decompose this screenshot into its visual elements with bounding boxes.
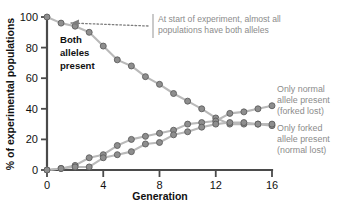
data-point — [185, 98, 191, 104]
y-tick-label-80: 80 — [26, 42, 38, 54]
x-tick-group: 0481216 — [44, 170, 278, 191]
x-tick-label-4: 4 — [100, 179, 106, 191]
series-line-1 — [47, 106, 272, 170]
data-point — [58, 20, 64, 26]
both-alleles-line-3: present — [60, 60, 95, 71]
data-point — [128, 149, 134, 155]
y-tick-label-0: 0 — [32, 164, 38, 176]
data-point — [44, 14, 50, 20]
only-normal-side-label: Only normal allele present (forked lost) — [277, 84, 330, 116]
only-forked-line-2: allele present — [277, 134, 330, 144]
y-axis-title: % of experimental populations — [4, 18, 16, 170]
data-point — [72, 164, 78, 170]
data-point — [171, 132, 177, 138]
both-alleles-line-1: Both — [60, 34, 82, 45]
data-point — [199, 124, 205, 130]
data-point — [241, 120, 247, 126]
y-tick-label-20: 20 — [26, 133, 38, 145]
data-point — [185, 121, 191, 127]
only-forked-line-1: Only forked — [277, 123, 322, 133]
data-point — [142, 141, 148, 147]
data-point — [86, 164, 92, 170]
data-point — [114, 143, 120, 149]
data-point — [171, 91, 177, 97]
data-point — [199, 106, 205, 112]
both-alleles-line-2: alleles — [60, 47, 89, 58]
both-alleles-inline-label: Both alleles present — [60, 34, 95, 71]
series-1 — [44, 103, 275, 173]
data-point — [100, 155, 106, 161]
x-axis-title: Generation — [132, 190, 187, 202]
data-point — [114, 152, 120, 158]
data-point — [269, 121, 275, 127]
x-tick-label-0: 0 — [44, 179, 50, 191]
population-genetics-line-chart: 020406080100 0481216 At start of experim… — [0, 0, 350, 215]
data-point — [157, 139, 163, 145]
data-point — [227, 120, 233, 126]
data-point — [86, 155, 92, 161]
y-tick-label-60: 60 — [26, 72, 38, 84]
data-point — [58, 165, 64, 171]
data-point — [128, 63, 134, 69]
only-normal-line-2: allele present — [277, 95, 330, 105]
only-normal-line-1: Only normal — [277, 84, 325, 94]
only-forked-line-3: (normal lost) — [277, 145, 326, 155]
data-point — [157, 81, 163, 87]
data-point — [142, 74, 148, 80]
only-normal-line-3: (forked lost) — [277, 106, 324, 116]
data-point — [227, 110, 233, 116]
data-point — [241, 109, 247, 115]
y-tick-label-40: 40 — [26, 103, 38, 115]
data-point — [44, 167, 50, 173]
data-point — [255, 121, 261, 127]
x-tick-label-16: 16 — [266, 179, 278, 191]
start-of-experiment-annotation: At start of experiment, almost all popul… — [71, 14, 281, 38]
x-tick-label-12: 12 — [210, 179, 222, 191]
data-point — [86, 29, 92, 35]
y-tick-group: 020406080100 — [20, 11, 47, 176]
data-point — [185, 129, 191, 135]
annotation-line-2: populations have both alleles — [158, 25, 269, 35]
data-point — [269, 103, 275, 109]
y-tick-label-100: 100 — [20, 11, 38, 23]
data-point — [157, 130, 163, 136]
annotation-line-1: At start of experiment, almost all — [158, 14, 281, 24]
data-point — [114, 57, 120, 63]
data-point — [128, 136, 134, 142]
series-2 — [44, 120, 275, 173]
data-point — [100, 43, 106, 49]
only-forked-side-label: Only forked allele present (normal lost) — [277, 123, 330, 155]
chart-svg: 020406080100 0481216 At start of experim… — [0, 0, 350, 215]
annotation-arrow — [71, 23, 148, 26]
data-point — [255, 106, 261, 112]
data-point — [213, 121, 219, 127]
data-point — [142, 133, 148, 139]
